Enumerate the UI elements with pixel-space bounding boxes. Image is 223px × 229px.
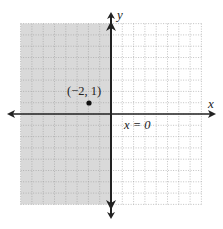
point-label: (−2, 1) [67, 84, 101, 98]
coordinate-plane: x y (−2, 1) x = 0 [0, 0, 223, 229]
boundary-label: x = 0 [123, 118, 151, 132]
x-axis-label: x [207, 96, 214, 111]
y-axis-label: y [115, 7, 123, 22]
data-point [86, 100, 91, 105]
